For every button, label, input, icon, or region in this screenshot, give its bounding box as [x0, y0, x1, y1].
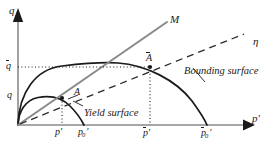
critical-state-line-label: M [170, 14, 179, 25]
x-tick-p0-bar-prime-mark: ′ [209, 127, 211, 138]
x-tick-p0-prime-subscript: 0 [82, 131, 85, 138]
x-tick-p-prime-mark: ′ [60, 126, 62, 137]
y-tick-q: q [7, 90, 12, 100]
y-tick-q-bar: q [6, 60, 11, 71]
x-tick-p-bar-prime: p′ [143, 127, 150, 138]
x-tick-p0-bar-prime-subscript: 0 [205, 132, 208, 139]
x-axis [18, 120, 255, 131]
point-A-label: A [74, 87, 80, 97]
bounding-surface-label: Bounding surface [184, 66, 258, 77]
stress-ratio-line-label: η [253, 36, 258, 47]
x-tick-p0-prime-mark: ′ [86, 126, 88, 137]
x-tick-p0-bar-prime: p0′ [201, 127, 211, 138]
point-A-bar-label: A [146, 52, 152, 63]
y-axis-label: q [9, 5, 15, 16]
point-A-bar-text: A [146, 52, 152, 63]
point-A-bar-marker [148, 65, 152, 69]
yield-surface-label: Yield surface [84, 108, 138, 119]
x-tick-p-bar-prime-base: p [143, 127, 148, 138]
x-axis-label: p' [252, 113, 260, 124]
x-tick-p-prime: p′ [55, 127, 62, 137]
x-tick-p0-prime: p0′ [78, 127, 88, 137]
yield-surface-leader [73, 101, 83, 106]
y-tick-q-bar-text: q [6, 60, 11, 71]
x-tick-p-bar-prime-mark: ′ [148, 127, 150, 138]
point-A-marker [60, 96, 64, 100]
bounding-surface-plasticity-figure: q p' q q p′ p0′ p′ p0′ M η Bounding surf… [0, 0, 279, 146]
